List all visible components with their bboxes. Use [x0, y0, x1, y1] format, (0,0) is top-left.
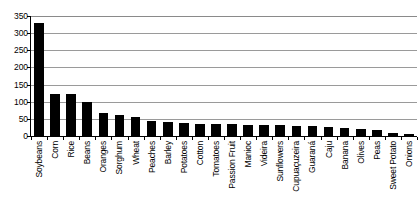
x-axis-category-labels: SoybeansCornRiceBeansOrangesSorghumWheat…	[31, 141, 417, 213]
bar[interactable]	[195, 124, 205, 136]
bar[interactable]	[243, 125, 253, 136]
x-axis-label-slot: Peaches	[144, 141, 160, 213]
x-axis-tick-mark	[128, 137, 129, 140]
x-axis-tick-mark	[144, 137, 145, 140]
x-axis-label-slot: Corn	[47, 141, 63, 213]
x-axis-category-label: Rice	[67, 141, 76, 157]
x-axis-category-label: Barley	[163, 141, 172, 164]
y-tick-label: 350	[0, 12, 28, 21]
y-tick-label: 0	[0, 132, 28, 141]
x-axis-label-slot: Oranges	[95, 141, 111, 213]
x-axis-category-label: Potatoes	[179, 141, 188, 173]
x-axis-tick-mark	[337, 137, 338, 140]
x-axis-tick-mark	[47, 137, 48, 140]
y-axis-tick-labels: 050100150200250300350	[0, 0, 28, 213]
x-axis-tick-mark	[111, 137, 112, 140]
bar[interactable]	[292, 126, 302, 136]
x-axis-tick-mark	[369, 137, 370, 140]
x-axis-category-label: Soybeans	[35, 141, 44, 178]
x-axis-tick-mark	[79, 137, 80, 140]
x-axis-tick-mark	[256, 137, 257, 140]
x-axis-label-slot: Wheat	[128, 141, 144, 213]
x-axis-category-label: Oranges	[99, 141, 108, 173]
x-axis-category-label: Passion Fruit	[228, 141, 237, 189]
bar[interactable]	[340, 128, 350, 136]
x-axis-tick-mark	[304, 137, 305, 140]
x-axis-tick-mark	[95, 137, 96, 140]
bar[interactable]	[115, 115, 125, 136]
x-axis-tick-mark	[272, 137, 273, 140]
bar-chart: 050100150200250300350 SoybeansCornRiceBe…	[0, 0, 420, 213]
y-tick-label: 150	[0, 80, 28, 89]
x-axis-label-slot: Sorghum	[111, 141, 127, 213]
y-tick-label: 200	[0, 63, 28, 72]
x-axis-label-slot: Guaraná	[304, 141, 320, 213]
x-axis-tick-mark	[417, 137, 418, 140]
x-axis-label-slot: Sweet Potato	[385, 141, 401, 213]
x-axis-tick-mark	[208, 137, 209, 140]
x-axis-label-slot: Cupuaçuzeira	[288, 141, 304, 213]
x-axis-category-label: Videira	[260, 141, 269, 166]
x-axis-category-label: Banana	[340, 141, 349, 169]
y-tick-label: 250	[0, 46, 28, 55]
x-axis-tick-mark	[63, 137, 64, 140]
bar[interactable]	[99, 113, 109, 136]
x-axis-tick-mark	[224, 137, 225, 140]
x-axis-category-label: Sweet Potato	[388, 141, 397, 190]
x-axis-tick-mark	[321, 137, 322, 140]
x-axis-label-slot: Videira	[256, 141, 272, 213]
x-axis-category-label: Cupuaçuzeira	[292, 141, 301, 192]
x-axis-category-label: Beans	[83, 141, 92, 164]
x-axis-category-label: Peaches	[147, 141, 156, 173]
x-axis-label-slot: Soybeans	[31, 141, 47, 213]
y-tick-label: 300	[0, 29, 28, 38]
bar[interactable]	[308, 126, 318, 136]
bar[interactable]	[131, 117, 141, 136]
x-axis-tick-mark	[192, 137, 193, 140]
bar[interactable]	[356, 129, 366, 136]
x-axis-label-slot: Tomatoes	[208, 141, 224, 213]
x-axis-tick-mark	[385, 137, 386, 140]
x-axis-category-label: Guaraná	[308, 141, 317, 173]
x-axis-label-slot: Passion Fruit	[224, 141, 240, 213]
bar[interactable]	[211, 124, 221, 136]
x-axis-category-label: Sunflowers	[276, 141, 285, 182]
x-axis-tick-mark	[240, 137, 241, 140]
x-axis-tick-mark	[353, 137, 354, 140]
x-axis-category-label: Wheat	[131, 141, 140, 165]
x-axis-label-slot: Peas	[369, 141, 385, 213]
x-axis-category-label: Cotton	[195, 141, 204, 165]
x-axis-tick-mark	[160, 137, 161, 140]
x-axis-label-slot: Cotton	[192, 141, 208, 213]
x-axis-label-slot: Barley	[160, 141, 176, 213]
bar[interactable]	[147, 121, 157, 136]
x-axis-category-label: Caju	[324, 141, 333, 158]
x-axis-tick-mark	[288, 137, 289, 140]
x-axis-category-label: Onions	[404, 141, 413, 167]
y-tick-label: 100	[0, 97, 28, 106]
x-axis-label-slot: Sunflowers	[272, 141, 288, 213]
x-axis-tick-mark	[401, 137, 402, 140]
bars-layer	[31, 16, 417, 136]
plot-area	[31, 16, 417, 136]
x-axis-label-slot: Olives	[353, 141, 369, 213]
x-axis-label-slot: Potatoes	[176, 141, 192, 213]
x-axis-category-label: Peas	[372, 141, 381, 160]
x-axis-label-slot: Manioc	[240, 141, 256, 213]
x-axis-category-label: Corn	[51, 141, 60, 159]
x-axis-category-label: Sorghum	[115, 141, 124, 174]
x-axis-label-slot: Beans	[79, 141, 95, 213]
bar[interactable]	[34, 23, 44, 136]
x-axis-label-slot: Rice	[63, 141, 79, 213]
bar[interactable]	[50, 94, 60, 136]
x-axis-category-label: Olives	[356, 141, 365, 164]
bar[interactable]	[82, 102, 92, 136]
bar[interactable]	[259, 125, 269, 136]
bar[interactable]	[324, 127, 334, 136]
bar[interactable]	[163, 122, 173, 136]
bar[interactable]	[179, 123, 189, 136]
bar[interactable]	[66, 94, 76, 136]
bar[interactable]	[227, 124, 237, 136]
x-axis-label-slot: Onions	[401, 141, 417, 213]
bar[interactable]	[275, 125, 285, 136]
